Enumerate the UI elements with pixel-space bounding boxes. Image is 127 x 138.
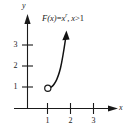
x-axis-arrowhead (108, 105, 118, 111)
curve-equation-label: F(x)=xr, x>1 (42, 14, 84, 23)
function-graph-figure: y x 1 2 3 1 2 3 F(x)=xr, x>1 (0, 0, 127, 138)
y-tick-label-1: 1 (11, 83, 20, 91)
x-axis-label: x (119, 104, 123, 112)
x-tick-label-3: 3 (89, 117, 98, 125)
open-endpoint-circle (45, 85, 51, 91)
equation-comma: , (67, 13, 69, 23)
y-tick-label-3: 3 (11, 41, 20, 49)
y-axis-label: y (22, 2, 26, 10)
x-tick-label-2: 2 (66, 117, 75, 125)
equation-domain-value: 1 (80, 13, 84, 23)
function-curve (50, 39, 66, 88)
equation-function-name: F(x) (42, 13, 57, 23)
curve-arrowhead (62, 31, 69, 41)
y-axis-arrowhead (24, 14, 30, 24)
x-tick-label-1: 1 (43, 117, 52, 125)
y-tick-label-2: 2 (11, 62, 20, 70)
